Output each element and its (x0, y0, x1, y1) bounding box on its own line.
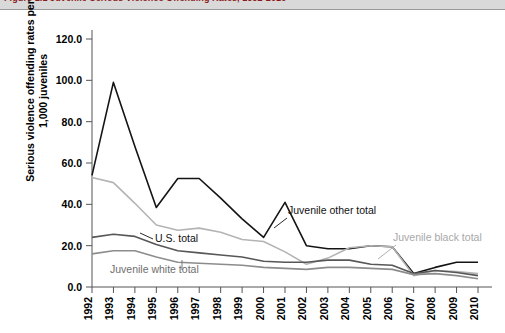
y-axis: 0.020.040.060.080.0100.0120.0 (56, 30, 92, 293)
y-tick-label: 20.0 (62, 240, 83, 252)
x-tick-label: 1999 (232, 297, 244, 321)
x-tick-label: 2006 (382, 297, 394, 321)
annotation-juvenile-other-total: Juvenile other total (274, 204, 376, 228)
x-tick-group: 1992199319941995199619971998199920002001… (82, 287, 480, 320)
figure-container: Figure 1.1 Juvenile Serious Violence Off… (0, 0, 505, 333)
annotation-juvenile-black-total: Juvenile black total (378, 231, 482, 259)
data-series-group (92, 82, 478, 278)
y-tick-group: 0.020.040.060.080.0100.0120.0 (56, 33, 92, 293)
x-tick-label: 2002 (296, 297, 308, 321)
x-tick-label: 1996 (168, 297, 180, 321)
line-chart-plot: 0.020.040.060.080.0100.0120.0 1992199319… (0, 9, 505, 333)
y-tick-label: 120.0 (56, 33, 82, 45)
y-tick-label: 40.0 (62, 198, 83, 210)
x-tick-label: 2001 (275, 297, 287, 321)
series-line-juvenile-black-total (92, 178, 478, 276)
annotation-label-black: Juvenile black total (393, 231, 482, 243)
x-tick-label: 2003 (318, 297, 330, 321)
x-tick-label: 1995 (146, 297, 158, 321)
x-tick-label: 1994 (125, 297, 137, 321)
x-tick-label: 1993 (103, 297, 115, 321)
x-tick-label: 1992 (82, 297, 94, 321)
y-tick-label: 100.0 (56, 74, 82, 86)
annotation-label-us: U.S. total (155, 232, 198, 244)
x-axis: 1992199319941995199619971998199920002001… (82, 287, 492, 320)
y-tick-label: 0.0 (67, 281, 82, 293)
annotation-juvenile-white-total: Juvenile white total (110, 260, 199, 275)
y-tick-label: 60.0 (62, 157, 83, 169)
x-tick-label: 2005 (361, 297, 373, 321)
y-tick-label: 80.0 (62, 116, 83, 128)
series-line-juvenile-other-total (92, 82, 478, 273)
x-tick-label: 1997 (189, 297, 201, 321)
x-tick-label: 2009 (447, 297, 459, 321)
x-tick-label: 2008 (425, 297, 437, 321)
annotation-label-white: Juvenile white total (110, 263, 199, 275)
x-tick-label: 2010 (468, 297, 480, 321)
x-tick-label: 2007 (404, 297, 416, 321)
x-tick-label: 2000 (254, 297, 266, 321)
x-tick-label: 1998 (211, 297, 223, 321)
annotation-label-other: Juvenile other total (288, 204, 376, 216)
x-tick-label: 2004 (339, 297, 351, 321)
